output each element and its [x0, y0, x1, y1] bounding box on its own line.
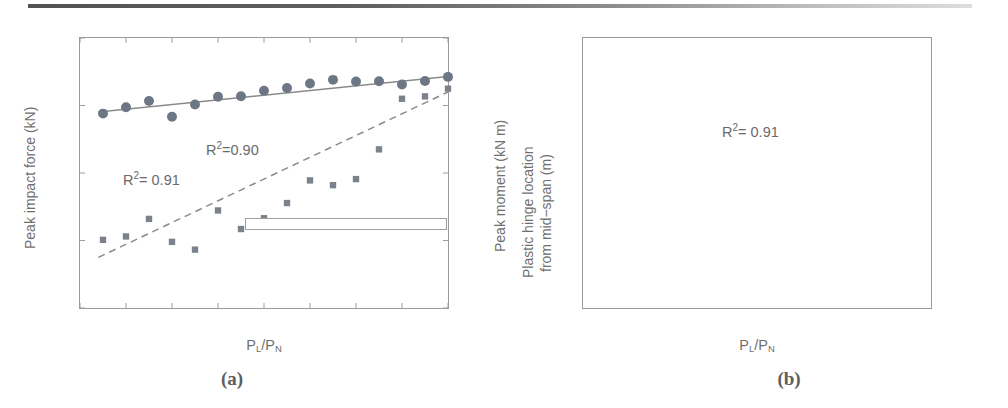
r2-prefix: R: [722, 124, 732, 140]
x-axis-label-base2: P: [265, 337, 275, 353]
y-axis-label-b-line2: from mid−span (m): [538, 154, 554, 272]
x-axis-label-base1: P: [739, 337, 749, 353]
panel-caption-b: (b): [777, 368, 800, 390]
x-axis-label-base1: P: [246, 337, 256, 353]
x-axis-label-b: PL/PN: [739, 337, 775, 354]
r2-prefix: R: [123, 172, 133, 188]
r2-value: = 0.91: [139, 172, 180, 188]
x-axis-label-base2: P: [758, 337, 768, 353]
r2-value: =0.90: [222, 142, 259, 158]
figure-panel-a: Peak impact force (kN) Peak moment (kN m…: [0, 0, 504, 408]
plot-canvas-b: [583, 38, 931, 308]
annotation-r2-moment: R2= 0.91: [123, 170, 180, 188]
r2-value: = 0.91: [738, 124, 779, 140]
annotation-r2-impact-force: R2=0.90: [206, 140, 259, 158]
x-axis-label-a: PL/PN: [246, 337, 282, 354]
x-axis-label-sub2: N: [275, 343, 282, 354]
plot-area-b: [582, 37, 932, 309]
annotation-r2-hinge: R2= 0.91: [722, 122, 779, 140]
figure-panel-b: Plastic hinge location from mid−span (m)…: [504, 0, 1008, 408]
y-axis-label-b-line1: Plastic hinge location: [520, 146, 536, 278]
legend-a: [245, 218, 447, 230]
r2-prefix: R: [206, 142, 216, 158]
x-axis-label-sub2: N: [768, 343, 775, 354]
panel-caption-a: (a): [221, 368, 243, 390]
y-axis-label-left-a: Peak impact force (kN): [22, 107, 38, 249]
